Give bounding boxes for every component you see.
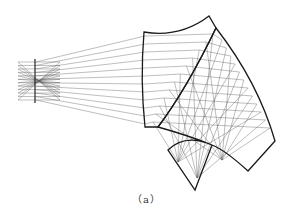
figure-caption: （a） bbox=[0, 191, 293, 206]
prism-element-2 bbox=[158, 28, 275, 190]
ray-bundle bbox=[18, 34, 270, 178]
prism-element-1 bbox=[142, 16, 216, 127]
prism-ray-diagram bbox=[0, 0, 293, 223]
